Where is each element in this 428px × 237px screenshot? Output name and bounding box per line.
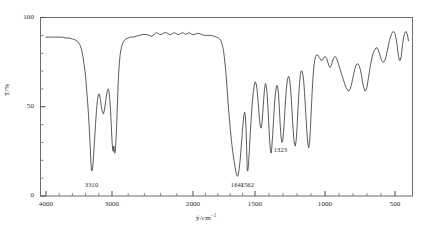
x-tick-label: 500 (375, 200, 415, 208)
y-axis-major-ticks (41, 18, 46, 197)
x-axis-title: ỹ/cm−1 (196, 214, 217, 222)
x-tick-label: 1000 (305, 200, 345, 208)
x-tick-label: 3000 (92, 200, 132, 208)
y-tick-label: 0 (10, 191, 34, 199)
plot-frame (41, 18, 413, 197)
spectrum-trace (46, 32, 408, 177)
x-axis-title-exponent: −1 (211, 213, 217, 218)
x-axis-major-ticks (46, 191, 395, 196)
y-tick-label: 100 (10, 13, 34, 21)
peak-label-3310: 3310 (75, 181, 109, 188)
peak-label-1562: 1562 (230, 181, 264, 188)
x-tick-label: 2000 (173, 200, 213, 208)
y-axis-title: T/% (3, 83, 11, 96)
x-tick-label: 4000 (26, 200, 66, 208)
x-axis-title-symbol: ỹ/cm (196, 214, 211, 222)
ir-spectrum-figure: T/% ỹ/cm−1 100500 4000300020001500100050… (0, 0, 428, 237)
peak-label-1323: 1323 (274, 146, 308, 153)
x-tick-label: 1500 (235, 200, 275, 208)
y-tick-label: 50 (10, 102, 34, 110)
